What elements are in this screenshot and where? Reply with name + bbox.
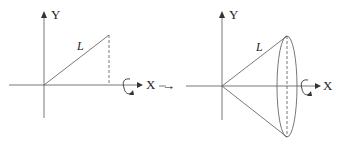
left-panel: X Y L — [9, 7, 166, 118]
right-panel: X Y L — [186, 7, 333, 137]
y-axis-label: Y — [51, 7, 61, 22]
x-axis-label: X — [146, 77, 156, 92]
x-axis-arrow-icon — [137, 82, 143, 88]
segment-label: L — [76, 39, 84, 53]
rotation-diagram: X Y L → X Y L — [0, 0, 342, 141]
rotation-arrow-icon — [301, 80, 312, 96]
y-axis-label: Y — [229, 7, 239, 22]
x-axis-arrow-icon — [315, 83, 321, 89]
x-axis-label: X — [323, 78, 333, 93]
transition-arrow: → — [162, 78, 175, 93]
rotation-arrow-icon — [123, 79, 134, 95]
segment-label: L — [255, 40, 263, 54]
y-axis-arrow-icon — [219, 11, 225, 18]
y-axis-arrow-icon — [41, 11, 47, 18]
